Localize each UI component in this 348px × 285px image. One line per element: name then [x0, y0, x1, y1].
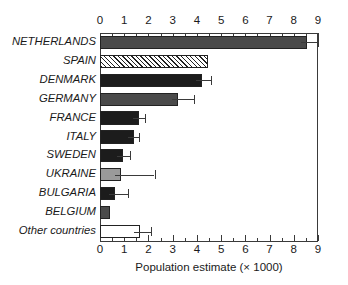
axis-tick-label: 2 [136, 14, 160, 26]
axis-tick-label: 8 [282, 243, 306, 255]
axis-tick-major [245, 235, 246, 241]
bar [100, 36, 307, 49]
bar [100, 74, 202, 87]
error-bar-line [196, 80, 212, 81]
axis-tick-major [270, 235, 271, 241]
error-bar-line [134, 232, 151, 233]
axis-tick-label: 7 [258, 14, 282, 26]
axis-tick-label: 9 [306, 243, 330, 255]
error-bar-line [109, 194, 128, 195]
axis-tick-label: 3 [161, 243, 185, 255]
axis-tick-minor [209, 238, 210, 242]
axis-tick-minor [282, 238, 283, 242]
error-bar-line [172, 99, 195, 100]
bar-category-label: ITALY [0, 130, 96, 142]
bar-category-label: Other countries [0, 224, 96, 236]
error-bar-cap [130, 151, 131, 160]
error-bar-line [115, 175, 155, 176]
bar-category-label: BELGIUM [0, 205, 96, 217]
axis-tick-major [197, 235, 198, 241]
bar-category-label: NETHERLANDS [0, 35, 96, 47]
error-bar-cap [128, 189, 129, 198]
axis-tick-major [221, 235, 222, 241]
axis-tick-label: 0 [88, 243, 112, 255]
axis-tick-label: 5 [209, 243, 233, 255]
axis-tick-minor [257, 238, 258, 242]
bar-chart: 00112233445566778899 NETHERLANDSSPAINDEN… [0, 0, 348, 285]
error-bar-cap [145, 114, 146, 123]
error-bar-line [117, 156, 130, 157]
axis-tick-minor [306, 238, 307, 242]
axis-tick-label: 1 [112, 14, 136, 26]
axis-tick-label: 8 [282, 14, 306, 26]
axis-tick-label: 6 [233, 243, 257, 255]
axis-tick-minor [161, 238, 162, 242]
bar-category-label: UKRAINE [0, 167, 96, 179]
error-bar-line [133, 118, 145, 119]
axis-tick-label: 3 [161, 14, 185, 26]
bar-category-label: FRANCE [0, 111, 96, 123]
axis-tick-label: 7 [258, 243, 282, 255]
bar-category-label: DENMARK [0, 73, 96, 85]
axis-tick-label: 0 [88, 14, 112, 26]
axis-tick-minor [185, 238, 186, 242]
error-bar-cap [194, 95, 195, 104]
axis-tick-major [318, 235, 319, 241]
bar [100, 206, 110, 219]
axis-tick-label: 2 [136, 243, 160, 255]
bar-category-label: BULGARIA [0, 186, 96, 198]
bottom-axis-line [100, 241, 318, 242]
error-bar-cap [211, 76, 212, 85]
bar [100, 93, 178, 106]
error-bar-line [301, 42, 318, 43]
axis-tick-major [148, 235, 149, 241]
axis-tick-label: 4 [185, 14, 209, 26]
bar-category-label: SWEDEN [0, 148, 96, 160]
bar-category-label: GERMANY [0, 92, 96, 104]
axis-tick-label: 4 [185, 243, 209, 255]
bar [100, 55, 208, 68]
axis-tick-label: 9 [306, 14, 330, 26]
error-bar-cap [155, 170, 156, 179]
axis-tick-major [173, 235, 174, 241]
error-bar-cap [151, 227, 152, 236]
error-bar-cap [139, 133, 140, 142]
error-bar-cap [318, 38, 319, 47]
bar-category-label: SPAIN [0, 54, 96, 66]
axis-tick-label: 1 [112, 243, 136, 255]
axis-tick-label: 6 [233, 14, 257, 26]
error-bar-line [128, 137, 139, 138]
axis-tick-major [294, 235, 295, 241]
axis-tick-minor [233, 238, 234, 242]
axis-tick-label: 5 [209, 14, 233, 26]
x-axis-title: Population estimate (× 1000) [100, 261, 318, 273]
